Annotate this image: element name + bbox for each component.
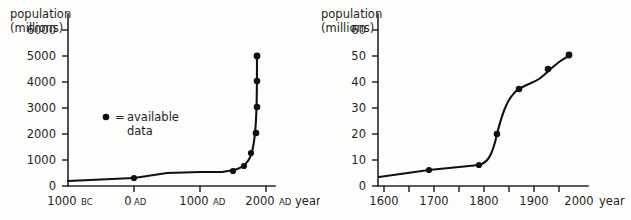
right-chart-svg: population (millions) 0 10 20 30 40 50 6… [311,0,631,220]
left-data-point-1900ad [253,130,260,137]
right-data-point-1790 [476,162,482,168]
right-y-tick-label-60: 60 [351,23,366,37]
right-x-ticks [384,186,559,192]
right-y-tick-label-10: 10 [351,153,366,167]
right-x-tick-label-1900: 1900 [519,194,548,208]
legend-marker-icon [103,114,110,121]
left-x-tick-label-0ad: 0 AD [124,194,146,208]
left-y-axis-title-line1: population [10,7,71,21]
left-y-tick-label-4000: 4000 [27,75,56,89]
left-x-tick-era-1: AD [134,197,147,207]
left-data-point-1850ad [248,150,254,156]
right-data-point-1895 [516,86,523,93]
left-data-point-1987ad [254,53,261,60]
right-data-point-1970 [566,52,573,59]
left-legend: = available data [103,110,179,138]
left-data-point-0ad [131,175,137,181]
chart-panel-left: population (millions) 0 1000 2000 3000 4… [0,0,320,220]
right-y-tick-label-40: 40 [351,75,366,89]
left-x-tick-number-3: 2000 [245,194,274,208]
left-y-tick-label-3000: 3000 [27,101,56,115]
left-x-tick-number-1: 0 [124,194,131,208]
legend-label-line2: data [127,124,153,138]
left-chart-svg: population (millions) 0 1000 2000 3000 4… [0,0,320,220]
left-data-point-1960ad [254,78,261,85]
legend-equals-sign: = [115,110,125,124]
left-y-ticks [62,30,68,186]
right-y-ticks [372,30,378,186]
left-y-tick-label-0: 0 [49,179,56,193]
left-y-tick-label-2000: 2000 [27,127,56,141]
right-data-point-1950 [545,66,552,73]
right-y-tick-label-30: 30 [351,101,366,115]
right-y-tick-label-50: 50 [351,49,366,63]
left-x-tick-label-1000ad: 1000 AD [179,194,225,208]
left-x-ticks [134,186,266,192]
left-x-tick-number-2: 1000 [179,194,208,208]
right-x-tick-label-1700: 1700 [419,194,448,208]
left-x-tick-label-2000ad: 2000 AD [245,194,291,208]
left-data-point-1930ad [254,104,261,111]
left-x-tick-era-2: AD [213,197,226,207]
right-data-point-1840 [494,131,501,138]
right-y-axis-title-line2: (millions) [321,21,374,35]
left-data-point-1750ad [241,163,247,169]
right-y-tick-label-0: 0 [359,179,366,193]
chart-panel-right: population (millions) 0 10 20 30 40 50 6… [311,0,631,220]
left-x-tick-label-1000bc: 1000 BC [47,194,92,208]
left-y-tick-label-1000: 1000 [27,153,56,167]
right-population-curve [379,55,570,177]
left-x-tick-era-3: AD [279,197,292,207]
legend-label-line1: available [127,110,179,124]
right-x-tick-label-1800: 1800 [469,194,498,208]
left-y-tick-label-6000: 6000 [27,23,56,37]
right-y-tick-label-20: 20 [351,127,366,141]
right-x-tick-label-1600: 1600 [369,194,398,208]
left-x-tick-era-0: BC [81,197,93,207]
right-data-point-1690 [426,167,432,173]
right-data-points [426,52,573,173]
left-y-tick-label-5000: 5000 [27,49,56,63]
right-x-axis-title: year [599,194,625,208]
left-data-point-1500ad [230,168,236,174]
population-growth-figure: population (millions) 0 1000 2000 3000 4… [0,0,631,220]
right-x-tick-label-2000: 2000 [564,194,593,208]
right-y-axis-title-line1: population [321,7,382,21]
left-x-tick-number-0: 1000 [47,194,76,208]
